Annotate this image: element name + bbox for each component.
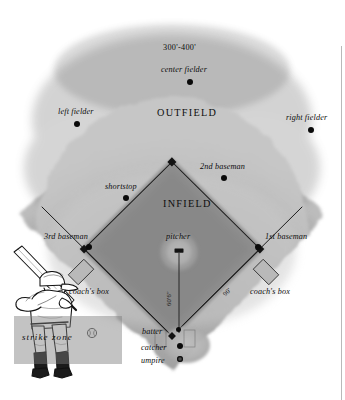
- batter-marker: [176, 327, 181, 332]
- umpire-marker: [177, 356, 183, 362]
- home-plate-circle: [162, 327, 210, 363]
- third-baseman-marker: [86, 244, 92, 250]
- left-fielder-marker: [74, 121, 80, 127]
- right-fielder-marker: [308, 127, 314, 133]
- pitching-rubber: [175, 249, 184, 253]
- baseball-field-diagram: 300'-400' 60'6" 90' OUTFIELD INFIELD lef…: [0, 0, 345, 400]
- second-baseman-marker: [221, 175, 227, 181]
- first-baseman-marker: [255, 244, 261, 250]
- catcher-marker: [177, 343, 183, 349]
- strike-zone-box: [14, 316, 122, 364]
- shortstop-marker: [123, 195, 129, 201]
- center-fielder-marker: [187, 79, 193, 85]
